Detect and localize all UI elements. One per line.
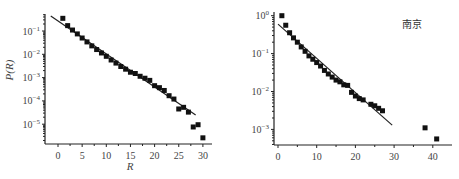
right-x-tick-label: 0 <box>276 151 281 162</box>
right-y-tick-label: 100 <box>256 9 270 21</box>
left-y-tick-label: 10−4 <box>23 94 41 106</box>
left-data-point <box>152 83 157 88</box>
right-data-point <box>423 125 428 130</box>
left-y-axis-title: P(R) <box>3 59 16 81</box>
right-data-point <box>287 30 292 35</box>
left-x-tick-label: 0 <box>56 150 61 161</box>
left-y-tick-label: 10−5 <box>23 118 41 130</box>
left-data-point <box>65 23 70 28</box>
right-data-point <box>279 13 284 18</box>
right-y-tick-label: 10−3 <box>252 123 270 135</box>
left-x-tick-label: 30 <box>198 150 208 161</box>
right-data-point <box>434 136 439 141</box>
left-data-point <box>118 64 123 69</box>
left-data-point <box>176 106 181 111</box>
left-data-point <box>181 105 186 110</box>
left-data-point <box>142 76 147 81</box>
left-data-point <box>138 74 143 79</box>
left-data-point <box>75 31 80 36</box>
left-data-point <box>80 36 85 41</box>
panel-right: 01020304010010−110−210−3南京 <box>252 9 452 162</box>
left-y-tick-label: 10−1 <box>23 25 41 37</box>
left-data-point <box>162 88 167 93</box>
left-x-tick-label: 25 <box>174 150 184 161</box>
left-data-point <box>123 67 128 72</box>
left-data-point <box>167 93 172 98</box>
right-x-tick-label: 30 <box>389 151 399 162</box>
left-data-point <box>200 135 205 140</box>
left-data-point <box>196 122 201 127</box>
right-annotation: 南京 <box>402 18 422 30</box>
left-x-tick-label: 5 <box>80 150 85 161</box>
left-data-point <box>99 50 104 55</box>
panel-left: 05101520253010−110−210−310−410−5P(R)R <box>3 14 212 172</box>
right-x-tick-label: 20 <box>350 151 360 162</box>
left-data-point <box>128 70 133 75</box>
right-x-tick-label: 40 <box>428 151 438 162</box>
left-y-tick-label: 10−3 <box>23 71 41 83</box>
left-y-tick-label: 10−2 <box>23 48 41 60</box>
chart-figure: 05101520253010−110−210−310−410−5P(R)R 01… <box>0 0 459 179</box>
left-data-point <box>104 54 109 59</box>
left-data-point <box>113 61 118 66</box>
left-data-point <box>109 57 114 62</box>
right-data-point <box>380 108 385 113</box>
left-data-point <box>89 43 94 48</box>
right-data-point <box>361 97 366 102</box>
right-data-point <box>318 64 323 69</box>
left-data-point <box>133 71 138 76</box>
left-data-point <box>70 28 75 33</box>
right-data-point <box>299 44 304 49</box>
right-data-point <box>345 83 350 88</box>
left-x-tick-label: 10 <box>101 150 111 161</box>
left-data-point <box>60 16 65 21</box>
left-x-tick-label: 20 <box>150 150 160 161</box>
left-data-point <box>171 97 176 102</box>
left-data-point <box>94 47 99 52</box>
right-x-tick-label: 10 <box>312 151 322 162</box>
left-data-point <box>147 78 152 83</box>
left-x-axis-title: R <box>126 160 134 172</box>
left-data-point <box>186 110 191 115</box>
right-data-point <box>303 49 308 54</box>
right-data-point <box>295 40 300 45</box>
right-data-point <box>283 23 288 28</box>
right-y-tick-label: 10−1 <box>252 47 270 59</box>
right-y-tick-label: 10−2 <box>252 85 270 97</box>
left-data-point <box>84 39 89 44</box>
right-data-point <box>291 35 296 40</box>
left-data-point <box>157 85 162 90</box>
left-data-point <box>191 124 196 129</box>
